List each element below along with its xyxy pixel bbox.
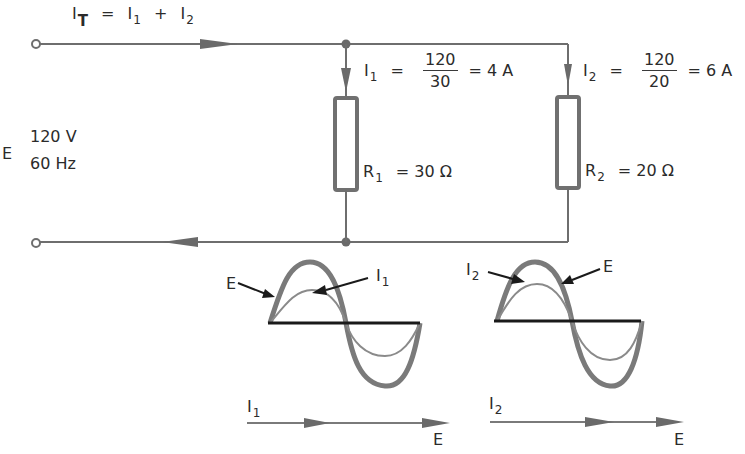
waveform2-e-label: E [603,259,613,275]
branch2-current-arrow [564,64,572,86]
phasor1-i-label: I1 [247,399,260,415]
it-subscript: T [78,12,88,30]
r2-subscript: 2 [597,170,605,184]
phasor-diagram-1 [247,418,450,428]
numerator: 120 [642,52,677,71]
pointer-e1 [238,283,266,294]
return-current-arrow [162,237,198,247]
numerator: 120 [423,52,458,71]
total-current-equation: IT = I1 + I2 [72,6,194,22]
waveform-branch2 [488,262,642,386]
branch2-current-equation: I2 = 120 20 = 6 A [583,52,732,90]
i1-symbol: I [247,397,252,416]
equals-sign: = [390,61,403,80]
branch1-current-equation: I1 = 120 30 = 4 A [364,52,513,90]
branch2-current-subscript: 2 [589,70,597,84]
waveform2-i-label: I2 [466,262,479,278]
i2-symbol: I [489,394,494,413]
resistor-r1 [335,98,357,190]
phasor2-e-label: E [674,432,684,448]
i2-symbol: I [181,4,186,23]
source-voltage: 120 V [30,129,77,145]
branch2-fraction: 120 20 [642,52,677,90]
branch1-current-symbol: I [364,61,369,80]
resistor-r2 [557,97,579,188]
pointer-i2 [488,272,513,279]
r1-value: = 30 Ω [396,162,452,181]
r1-subscript: 1 [375,171,383,185]
i1-symbol: I [128,4,133,23]
source-symbol: E [2,146,12,162]
r2-symbol: R [585,161,596,180]
waveform1-e-label: E [226,276,236,292]
branch1-current-arrow [341,68,351,92]
i2-subscript: 2 [186,13,194,27]
i1-subscript: 1 [382,275,390,289]
branch1-current-result: = 4 A [469,61,514,80]
i1-subscript: 1 [253,406,261,420]
pointer-e2 [572,269,600,280]
phasor2-i-label: I2 [489,396,502,412]
source-frequency: 60 Hz [30,156,76,172]
phasor1-voltage-arrow [422,418,450,428]
phasor2-current-arrow [585,417,614,427]
i1-subscript: 1 [133,13,141,27]
resistor-r2-label: R2 = 20 Ω [585,163,674,179]
phasor1-current-arrow [304,418,330,428]
phasor1-e-label: E [433,432,443,448]
waveform-branch1 [238,262,420,386]
resistor-r1-label: R1 = 30 Ω [363,164,452,180]
input-terminal-top [32,40,40,48]
equals-sign: = [101,4,114,23]
it-symbol: I [72,4,77,23]
total-current-arrow [200,39,238,49]
i2-subscript: 2 [472,269,480,283]
phasor-diagram-2 [490,417,684,427]
i2-subscript: 2 [495,403,503,417]
i1-symbol: I [376,266,381,285]
branch1-fraction: 120 30 [423,52,458,90]
denominator: 20 [647,71,671,90]
plus-sign: + [154,4,167,23]
input-terminal-bottom [32,239,40,247]
r1-symbol: R [363,162,374,181]
i2-symbol: I [466,260,471,279]
pointer-e1-head [262,289,275,298]
denominator: 30 [428,71,452,90]
r2-value: = 20 Ω [618,161,674,180]
phasor2-voltage-arrow [656,417,684,427]
branch2-current-symbol: I [583,61,588,80]
waveform1-i-label: I1 [376,268,389,284]
branch1-current-subscript: 1 [370,70,378,84]
branch2-current-result: = 6 A [688,61,733,80]
equals-sign: = [609,61,622,80]
